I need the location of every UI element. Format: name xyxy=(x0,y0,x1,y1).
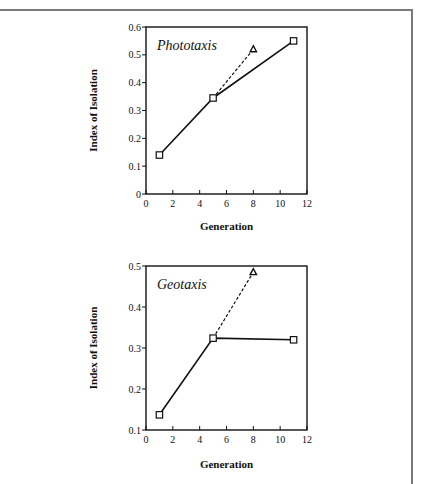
x-axis-title: Generation xyxy=(200,458,253,470)
square-marker xyxy=(156,412,162,418)
x-tick-label: 8 xyxy=(251,434,256,445)
square-marker xyxy=(290,337,296,343)
square-marker xyxy=(210,335,216,341)
y-tick-label: 0.1 xyxy=(129,425,142,436)
x-tick-label: 2 xyxy=(170,434,175,445)
y-axis-title: Index of Isolation xyxy=(87,307,99,390)
x-tick-label: 4 xyxy=(197,434,202,445)
x-tick-label: 12 xyxy=(302,434,312,445)
x-tick-label: 10 xyxy=(275,434,285,445)
dashed-series-line xyxy=(213,272,253,338)
panel-title: Geotaxis xyxy=(157,277,207,292)
y-tick-label: 0.3 xyxy=(129,343,142,354)
y-tick-label: 0.5 xyxy=(129,261,142,272)
solid-series-line xyxy=(159,338,293,415)
y-tick-label: 0.2 xyxy=(129,384,142,395)
triangle-marker xyxy=(250,269,256,275)
y-tick-label: 0.4 xyxy=(129,302,142,313)
x-tick-label: 6 xyxy=(224,434,229,445)
x-tick-label: 0 xyxy=(144,434,149,445)
geotaxis-chart: 0246810120.10.20.30.40.5GenerationIndex … xyxy=(0,0,423,484)
